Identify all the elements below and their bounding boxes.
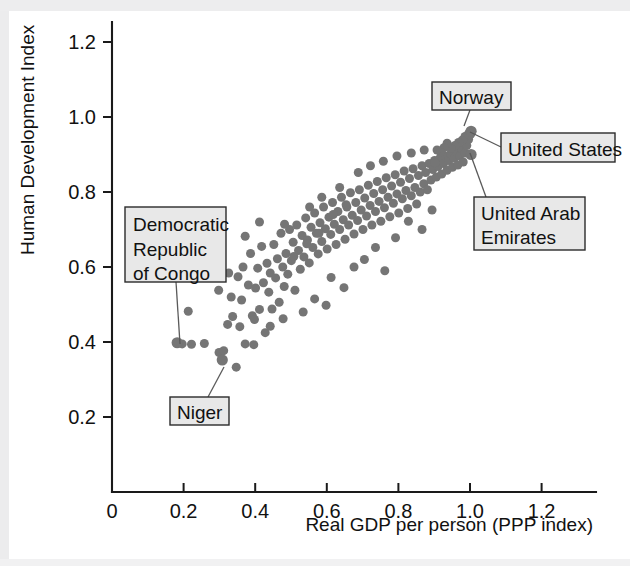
data-point — [249, 340, 258, 349]
data-point — [339, 283, 348, 292]
data-point — [232, 363, 241, 372]
data-point — [327, 273, 336, 282]
data-point — [360, 194, 369, 203]
data-point — [362, 212, 371, 221]
data-point — [281, 249, 290, 258]
data-point — [299, 308, 308, 317]
x-axis-ticks — [184, 483, 542, 492]
data-point — [366, 161, 375, 170]
data-point — [329, 210, 338, 219]
data-point — [346, 188, 355, 197]
callout-norway[interactable]: Norway — [432, 82, 511, 110]
data-point — [264, 288, 273, 297]
data-point — [355, 185, 364, 194]
data-point — [328, 198, 337, 207]
data-point — [353, 216, 362, 225]
x-axis-tick-label: 0.4 — [241, 500, 269, 522]
callout-uae-line1: United Arab — [481, 203, 580, 224]
data-point — [337, 193, 346, 202]
data-point — [405, 174, 414, 183]
data-point — [305, 258, 314, 267]
callout-drc[interactable]: Democratic Republic of Congo — [125, 207, 229, 284]
x-axis-tick-label: 0 — [106, 500, 117, 522]
data-point — [228, 312, 237, 321]
data-point — [253, 264, 262, 273]
callout-drc-line1: Democratic — [133, 214, 229, 235]
callout-leader-line — [464, 110, 470, 126]
data-point — [407, 191, 416, 200]
data-point — [385, 212, 394, 221]
x-axis-tick-label: 0.2 — [170, 500, 198, 522]
y-axis-tick-label: 1.0 — [68, 106, 96, 128]
data-point — [378, 185, 387, 194]
data-point — [271, 273, 280, 282]
callout-leader-line — [470, 153, 486, 197]
data-point — [398, 194, 407, 203]
y-axis-tick-label: 0.6 — [68, 256, 96, 278]
data-point — [187, 340, 196, 349]
data-point — [290, 286, 299, 295]
data-point — [275, 298, 284, 307]
callout-niger[interactable]: Niger — [170, 397, 229, 425]
data-point — [335, 183, 344, 192]
data-point — [380, 203, 389, 212]
data-point — [428, 206, 437, 215]
callout-leader-line — [470, 132, 501, 147]
data-point — [382, 173, 391, 182]
plot-canvas: 0.20.40.60.81.01.2 00.20.40.60.81.01.2 H… — [0, 0, 630, 566]
callout-united-states[interactable]: United States — [501, 133, 622, 162]
data-point — [335, 225, 344, 234]
data-point — [263, 259, 272, 268]
data-point — [276, 229, 285, 238]
data-point — [257, 242, 266, 251]
data-point — [259, 278, 268, 287]
data-point — [350, 263, 359, 272]
data-point — [317, 237, 326, 246]
y-axis-tick-labels: 0.20.40.60.81.01.2 — [68, 31, 96, 428]
data-point — [433, 146, 442, 155]
data-point — [341, 235, 350, 244]
data-point — [241, 232, 250, 241]
data-point — [223, 320, 232, 329]
data-point — [239, 263, 248, 272]
data-point — [367, 221, 376, 230]
data-point — [227, 293, 236, 302]
data-point — [430, 158, 439, 167]
data-point — [351, 198, 360, 207]
scatter-plot-figure: 0.20.40.60.81.01.2 00.20.40.60.81.01.2 H… — [0, 0, 630, 566]
data-point — [314, 249, 323, 258]
data-point — [283, 270, 292, 279]
y-axis-ticks — [103, 42, 112, 417]
data-point — [246, 249, 255, 258]
callout-united-states-label: United States — [508, 139, 622, 160]
data-point — [323, 245, 332, 254]
data-point — [305, 203, 314, 212]
data-point — [255, 218, 264, 227]
callout-leader-line — [208, 367, 224, 397]
data-point — [407, 149, 416, 158]
data-point — [371, 207, 380, 216]
data-point — [268, 305, 277, 314]
data-point — [391, 233, 400, 242]
data-point — [280, 220, 289, 229]
callout-uae[interactable]: United Arab Emirates — [474, 197, 585, 250]
highlighted-data-point — [465, 126, 476, 137]
data-point — [319, 203, 328, 212]
data-point — [403, 204, 412, 213]
data-point — [369, 189, 378, 198]
data-point — [373, 177, 382, 186]
data-point — [235, 322, 244, 331]
data-point — [358, 225, 367, 234]
data-point — [332, 240, 341, 249]
data-point — [292, 221, 301, 230]
y-axis-title: Human Development Index — [17, 24, 38, 255]
data-point — [322, 301, 331, 310]
data-point — [412, 200, 421, 209]
data-point — [423, 185, 432, 194]
callout-drc-line2: Republic — [133, 239, 207, 260]
data-point — [266, 322, 275, 331]
y-axis-tick-label: 0.2 — [68, 406, 96, 428]
data-point — [314, 229, 323, 238]
data-point — [255, 305, 264, 314]
data-point — [379, 157, 388, 166]
